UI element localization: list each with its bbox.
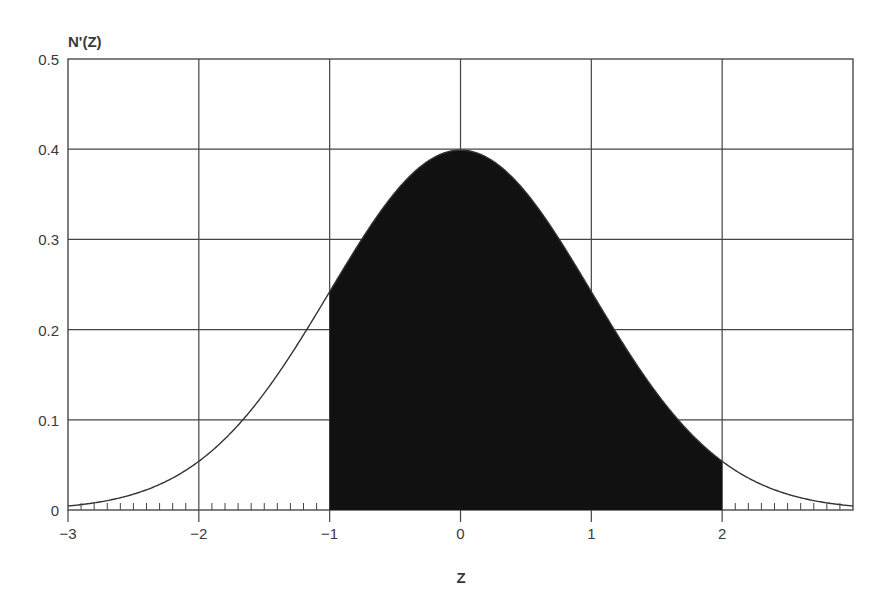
y-tick-labels: 00.10.20.30.40.5 [38, 51, 59, 519]
y-tick-label: 0.5 [38, 51, 59, 68]
y-tick-label: 0.1 [38, 412, 59, 429]
x-tick-label: −1 [321, 525, 338, 542]
y-tick-label: 0.3 [38, 231, 59, 248]
x-tick-label: −3 [59, 525, 76, 542]
x-tick-label: 0 [456, 525, 464, 542]
x-tick-label: 2 [718, 525, 726, 542]
x-tick-labels: −3−2−1012 [59, 525, 726, 542]
x-axis-title: Z [456, 569, 465, 586]
y-tick-label: 0.4 [38, 141, 59, 158]
x-major-ticks [68, 510, 722, 522]
x-tick-label: −2 [190, 525, 207, 542]
y-axis-title: N'(Z) [68, 33, 102, 50]
normal-distribution-chart: −3−2−1012 00.10.20.30.40.5 N'(Z) Z [0, 0, 880, 611]
y-tick-label: 0 [51, 502, 59, 519]
y-tick-label: 0.2 [38, 322, 59, 339]
x-tick-label: 1 [587, 525, 595, 542]
